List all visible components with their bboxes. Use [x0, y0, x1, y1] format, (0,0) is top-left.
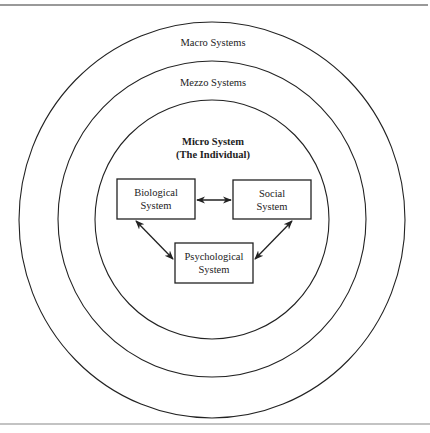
biological-box-line2: System — [141, 200, 172, 211]
social-box-line2: System — [257, 201, 288, 212]
social-psych-arrow — [255, 221, 292, 259]
biological-system-box: Biological System — [117, 179, 195, 219]
micro-system-subtitle: (The Individual) — [176, 149, 250, 161]
biological-box-line1: Biological — [134, 187, 178, 198]
psychological-system-box: Psychological System — [175, 243, 253, 283]
psychological-box-line1: Psychological — [185, 251, 244, 262]
social-box-line1: Social — [259, 188, 285, 199]
social-system-box: Social System — [233, 180, 311, 219]
systems-diagram: Macro Systems Mezzo Systems Micro System… — [0, 0, 430, 433]
mezzo-system-ring — [58, 61, 366, 377]
macro-systems-label: Macro Systems — [180, 37, 245, 48]
psychological-box-line2: System — [199, 264, 230, 275]
micro-system-title: Micro System — [182, 136, 244, 147]
mezzo-systems-label: Mezzo Systems — [180, 77, 246, 88]
bio-psych-arrow — [136, 221, 173, 259]
